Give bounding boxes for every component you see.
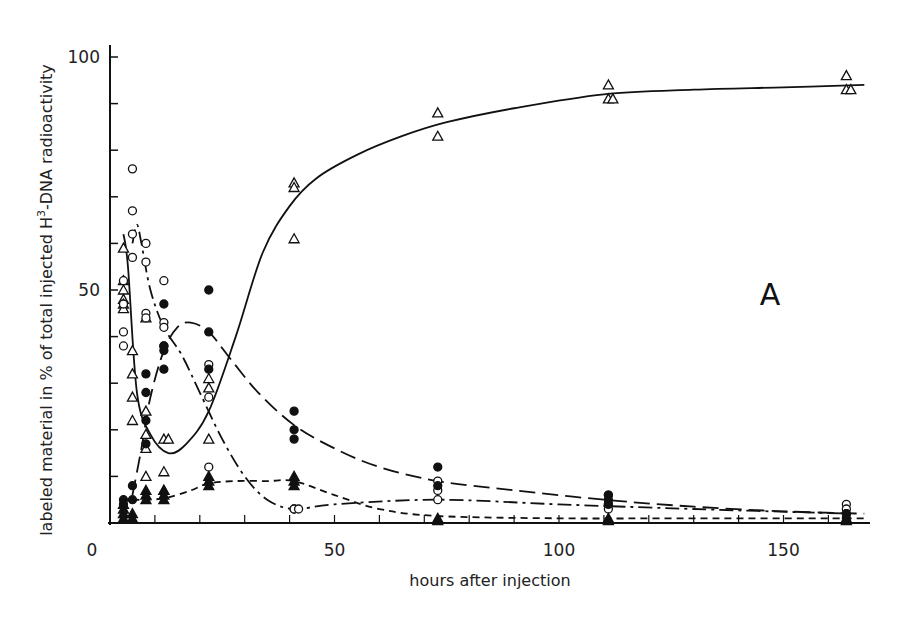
data-point-triangle-open xyxy=(204,374,214,383)
data-point-circle-open xyxy=(119,342,127,350)
data-point-circle-open xyxy=(434,496,442,504)
curve-open-circles xyxy=(132,225,850,514)
data-point-circle-open xyxy=(160,323,168,331)
data-point-circle-open xyxy=(142,314,150,322)
curve-filled-circles xyxy=(132,322,864,513)
data-point-triangle-open xyxy=(289,234,299,243)
data-point-circle-open xyxy=(119,328,127,336)
data-point-circle-open xyxy=(128,230,136,238)
chart: 50100 050100150 hours after injection la… xyxy=(0,0,914,620)
data-point-circle-filled xyxy=(290,407,298,415)
data-point-triangle-open xyxy=(204,383,214,392)
y-axis-title: labeled material in % of total injected … xyxy=(35,64,56,536)
data-point-circle-filled xyxy=(142,389,150,397)
y-tick-label: 100 xyxy=(68,47,100,67)
data-point-circle-open xyxy=(119,300,127,308)
data-point-triangle-open xyxy=(603,80,613,89)
data-point-circle-open xyxy=(142,258,150,266)
data-point-circle-open xyxy=(142,239,150,247)
data-point-circle-open xyxy=(295,505,303,513)
data-point-circle-filled xyxy=(142,440,150,448)
x-tick-label: 100 xyxy=(543,540,575,560)
axes: 50100 050100150 xyxy=(68,45,870,560)
fitted-curves xyxy=(123,85,864,519)
data-point-triangle-open xyxy=(433,131,443,140)
data-point-triangle-open xyxy=(127,346,137,355)
data-point-circle-filled xyxy=(434,482,442,490)
data-point-circle-filled xyxy=(290,435,298,443)
data-point-triangle-open xyxy=(127,415,137,424)
x-ticks: 050100150 xyxy=(87,515,829,560)
curve-filled-triangles xyxy=(132,480,864,518)
data-point-circle-filled xyxy=(142,370,150,378)
data-point-circle-filled xyxy=(128,496,136,504)
y-axis-title-main: labeled material in % of total injected … xyxy=(37,217,56,536)
data-point-circle-filled xyxy=(160,347,168,355)
data-point-triangle-open xyxy=(159,467,169,476)
data-point-triangle-open xyxy=(127,369,137,378)
data-point-circle-filled xyxy=(290,426,298,434)
data-point-circle-filled xyxy=(205,365,213,373)
x-tick-label: 50 xyxy=(324,540,346,560)
y-tick-label: 50 xyxy=(78,280,100,300)
panel-label: A xyxy=(760,277,781,312)
data-point-circle-open xyxy=(160,277,168,285)
data-markers xyxy=(118,71,855,525)
data-point-circle-open xyxy=(119,277,127,285)
data-point-triangle-open xyxy=(204,434,214,443)
data-point-circle-filled xyxy=(604,500,612,508)
data-point-circle-open xyxy=(128,165,136,173)
data-point-circle-filled xyxy=(205,286,213,294)
data-point-circle-filled xyxy=(128,482,136,490)
x-tick-label: 0 xyxy=(87,540,98,560)
x-tick-label: 150 xyxy=(767,540,799,560)
data-point-triangle-open xyxy=(141,471,151,480)
data-point-triangle-open xyxy=(841,71,851,80)
data-point-triangle-open xyxy=(433,108,443,117)
data-point-triangle-open xyxy=(118,243,128,252)
data-point-circle-open xyxy=(128,253,136,261)
data-point-circle-filled xyxy=(205,328,213,336)
data-point-circle-open xyxy=(128,207,136,215)
data-point-circle-filled xyxy=(434,463,442,471)
data-point-triangle-open xyxy=(127,392,137,401)
data-point-circle-open xyxy=(205,393,213,401)
x-axis-title: hours after injection xyxy=(409,571,570,590)
data-point-circle-filled xyxy=(142,416,150,424)
data-point-triangle-open xyxy=(141,406,151,415)
data-point-circle-open xyxy=(205,463,213,471)
y-axis-title-superscript: 3 xyxy=(35,210,48,217)
data-point-circle-filled xyxy=(160,300,168,308)
data-point-circle-filled xyxy=(160,365,168,373)
curve-open-triangles xyxy=(123,85,864,453)
data-point-triangle-open xyxy=(118,285,128,294)
y-axis-title-tail: -DNA radioactivity xyxy=(37,64,56,210)
